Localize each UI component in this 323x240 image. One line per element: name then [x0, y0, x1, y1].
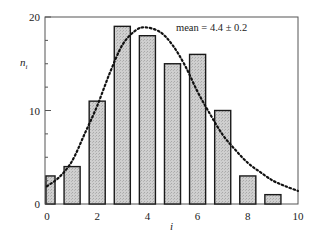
- histogram-chart: 010200246810 ni i mean = 4.4 ± 0.2: [0, 0, 323, 240]
- histogram-bar: [190, 54, 206, 204]
- y-tick-label: 20: [29, 11, 41, 23]
- bars-group: [46, 26, 281, 204]
- x-axis-label: i: [170, 220, 173, 232]
- x-tick-label: 10: [293, 210, 305, 222]
- x-tick-label: 2: [94, 210, 100, 222]
- histogram-bar: [114, 26, 130, 204]
- histogram-bar: [215, 111, 231, 205]
- x-tick-label: 0: [44, 210, 50, 222]
- x-tick-label: 6: [195, 210, 201, 222]
- y-tick-label: 0: [35, 198, 41, 210]
- y-axis-label: ni: [20, 56, 28, 71]
- histogram-bar: [64, 167, 80, 204]
- histogram-bar: [265, 195, 281, 204]
- histogram-bar: [139, 36, 155, 204]
- x-tick-label: 8: [245, 210, 251, 222]
- histogram-bar: [240, 176, 256, 204]
- mean-annotation: mean = 4.4 ± 0.2: [176, 22, 247, 33]
- y-tick-label: 10: [29, 105, 41, 117]
- x-tick-label: 4: [145, 210, 151, 222]
- histogram-bar: [164, 64, 180, 204]
